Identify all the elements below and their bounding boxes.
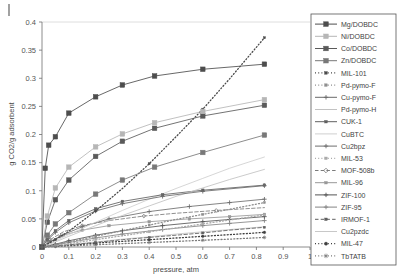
- x-axis-title: pressure, atm: [153, 265, 199, 274]
- x-tick-label: 0.9: [278, 252, 288, 261]
- legend-label: Ni/DOBDC: [341, 33, 375, 40]
- data-point-marker: [120, 132, 125, 137]
- data-point-marker: [53, 222, 58, 227]
- data-point-marker: [188, 218, 191, 221]
- data-point-marker: [263, 202, 265, 204]
- data-point-marker: [53, 197, 58, 202]
- data-point-marker: [201, 114, 206, 119]
- data-point-marker: [148, 238, 151, 241]
- legend-label: CUK-1: [341, 118, 362, 125]
- legend-label: MIL-47: [341, 240, 363, 247]
- legend-label: MIL-53: [341, 155, 363, 162]
- data-point-marker: [120, 139, 125, 144]
- data-point-marker: [202, 235, 205, 238]
- data-point-marker: [263, 236, 267, 240]
- data-point-marker: [67, 111, 72, 116]
- data-point-marker: [201, 238, 205, 242]
- data-point-marker: [108, 224, 111, 227]
- data-point-marker: [262, 97, 267, 102]
- data-point-marker: [152, 74, 157, 79]
- legend-label: ZIF-100: [341, 192, 366, 199]
- y-tick-label: 0.15: [21, 158, 36, 167]
- data-point-marker: [325, 157, 328, 160]
- legend-label: MOF-508b: [341, 167, 375, 174]
- y-tick-label: 0.1: [26, 187, 36, 196]
- x-tick-label: 0.2: [90, 252, 100, 261]
- data-point-marker: [325, 181, 328, 184]
- legend-label: Co/DOBDC: [341, 45, 377, 52]
- data-point-marker: [95, 239, 97, 241]
- data-point-marker: [324, 34, 329, 39]
- data-point-marker: [148, 231, 150, 233]
- data-point-marker: [54, 239, 56, 241]
- data-point-marker: [152, 165, 157, 170]
- data-point-marker: [95, 235, 97, 237]
- data-point-marker: [325, 120, 328, 123]
- legend-label: Cu2bpz: [341, 143, 366, 151]
- data-point-marker: [53, 186, 58, 191]
- data-point-marker: [53, 134, 58, 139]
- data-point-marker: [93, 154, 98, 159]
- chart-figure: 00.050.10.150.20.250.30.350.4 00.10.20.3…: [0, 0, 400, 277]
- data-point-marker: [201, 109, 206, 114]
- data-point-marker: [201, 67, 206, 72]
- x-tick-label: 0: [40, 252, 44, 261]
- data-point-marker: [325, 84, 328, 87]
- data-point-marker: [262, 62, 267, 67]
- data-point-marker: [43, 166, 48, 171]
- legend-label: Pd-pymo-H: [341, 106, 376, 114]
- chart-legend: Mg/DOBDCNi/DOBDCCo/DOBDCZn/DOBDCMIL-101P…: [311, 14, 396, 265]
- x-tick-label: 0.1: [64, 252, 74, 261]
- data-point-marker: [201, 150, 206, 155]
- legend-label: MIL-101: [341, 70, 367, 77]
- legend-label: MIL-96: [341, 179, 363, 186]
- y-axis-title: g CO2/g adsorbent: [7, 101, 16, 165]
- co2-adsorption-isotherm-chart: 00.050.10.150.20.250.30.350.4 00.10.20.3…: [0, 0, 400, 277]
- data-point-marker: [152, 120, 157, 125]
- data-point-marker: [67, 210, 72, 215]
- x-tick-label: 0.4: [144, 252, 154, 261]
- y-tick-label: 0.35: [21, 46, 36, 55]
- data-point-marker: [95, 241, 97, 243]
- legend-label: Mg/DOBDC: [341, 21, 378, 29]
- data-point-marker: [120, 83, 125, 88]
- data-point-marker: [263, 214, 265, 216]
- data-point-marker: [148, 236, 150, 238]
- data-point-marker: [152, 126, 157, 131]
- data-point-marker: [324, 46, 329, 51]
- x-tick-label: 0.3: [117, 252, 127, 261]
- y-tick-label: 0.25: [21, 102, 36, 111]
- data-point-marker: [262, 103, 267, 108]
- legend-label: Cu2pzdc: [341, 228, 369, 236]
- data-point-marker: [93, 145, 98, 150]
- data-point-marker: [148, 224, 150, 226]
- data-point-marker: [148, 163, 150, 165]
- data-point-marker: [325, 218, 328, 221]
- y-tick-label: 0: [32, 243, 36, 252]
- data-point-marker: [324, 58, 329, 63]
- legend-label: IRMOF-1: [341, 216, 370, 223]
- legend-item-co-dobdc[interactable]: Co/DOBDC: [315, 45, 377, 52]
- data-point-marker: [202, 213, 204, 215]
- legend-label: Zn/DOBDC: [341, 57, 376, 64]
- y-tick-label: 0.05: [21, 215, 36, 224]
- data-point-marker: [324, 254, 329, 259]
- y-tick-label: 0.3: [26, 74, 36, 83]
- x-tick-label: 0.5: [171, 252, 181, 261]
- data-point-marker: [263, 226, 265, 228]
- data-point-marker: [228, 215, 231, 218]
- data-point-marker: [263, 231, 266, 234]
- x-tick-label: 0.7: [224, 252, 234, 261]
- data-point-marker: [67, 178, 72, 183]
- legend-label: ZIF-95: [341, 204, 362, 211]
- y-tick-label: 0.4: [26, 18, 36, 27]
- data-point-marker: [147, 241, 151, 245]
- legend-label: Pd-pymo-F: [341, 82, 376, 90]
- data-point-marker: [54, 244, 56, 246]
- legend-label: CuBTC: [341, 131, 364, 138]
- data-point-marker: [45, 214, 50, 219]
- data-point-marker: [324, 22, 329, 27]
- data-point-marker: [46, 143, 51, 148]
- data-point-marker: [262, 133, 267, 138]
- data-point-marker: [120, 178, 125, 183]
